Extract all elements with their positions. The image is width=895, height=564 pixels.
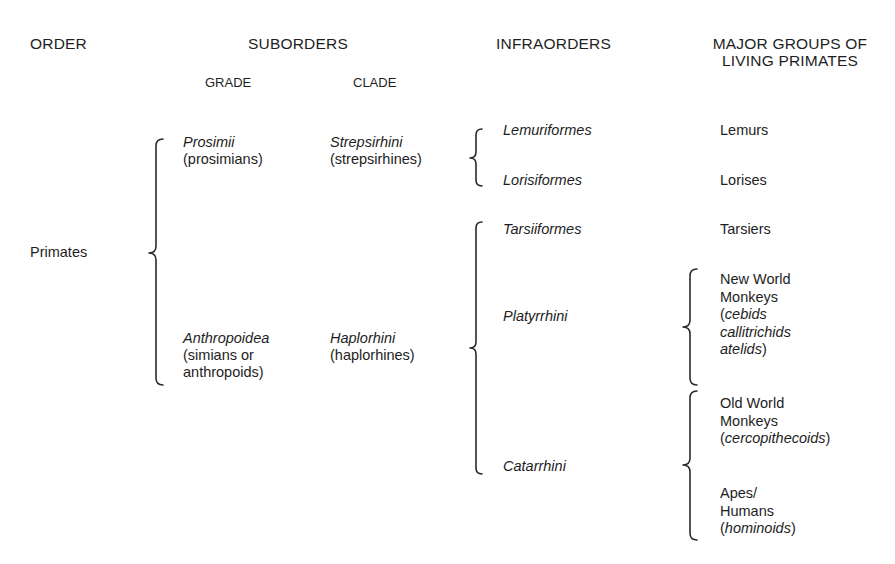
grade-anthropoidea-name: Anthropoidea — [183, 330, 269, 347]
group-lorises: Lorises — [720, 172, 767, 189]
group-new-world-monkeys: New World Monkeys (cebids callitrichids … — [720, 271, 791, 359]
infraorder-catarrhini: Catarrhini — [503, 458, 566, 475]
group-owm-line1: Old World — [720, 395, 830, 413]
clade-strepsirhini: Strepsirhini (strepsirhines) — [330, 134, 422, 168]
group-apes-humans: Apes/ Humans (hominoids) — [720, 485, 796, 538]
infraorder-lemuriformes: Lemuriformes — [503, 122, 592, 139]
infraorder-lorisiformes: Lorisiformes — [503, 172, 582, 189]
catarrhini-brace-icon — [683, 391, 697, 540]
haplorhini-brace-icon — [470, 222, 482, 474]
group-old-world-monkeys: Old World Monkeys (cercopithecoids) — [720, 395, 830, 448]
strepsirhini-brace-icon — [470, 129, 482, 186]
clade-haplorhini: Haplorhini (haplorhines) — [330, 330, 415, 364]
clade-haplorhini-name: Haplorhini — [330, 330, 415, 347]
clade-strepsirhini-name: Strepsirhini — [330, 134, 422, 151]
group-apes-line2: Humans — [720, 503, 796, 521]
grade-anthropoidea-common-line2: anthropoids) — [183, 364, 269, 381]
group-lemurs: Lemurs — [720, 122, 768, 139]
infraorder-platyrrhini: Platyrrhini — [503, 308, 567, 325]
clade-strepsirhini-common: (strepsirhines) — [330, 151, 422, 168]
grade-prosimii-common: (prosimians) — [183, 151, 263, 168]
new-world-brace-icon — [683, 269, 697, 385]
grade-prosimii: Prosimii (prosimians) — [183, 134, 263, 168]
grade-prosimii-name: Prosimii — [183, 134, 263, 151]
group-nwm-line1: New World — [720, 271, 791, 289]
group-apes-family: (hominoids) — [720, 520, 796, 538]
group-apes-line1: Apes/ — [720, 485, 796, 503]
infraorder-tarsiiformes: Tarsiiformes — [503, 221, 581, 238]
group-tarsiers: Tarsiers — [720, 221, 771, 238]
group-owm-line2: Monkeys — [720, 413, 830, 431]
group-nwm-family-atelids: atelids) — [720, 341, 791, 359]
primates-brace-icon — [149, 139, 163, 385]
group-owm-family: (cercopithecoids) — [720, 430, 830, 448]
grade-anthropoidea-common-line1: (simians or — [183, 347, 269, 364]
group-nwm-family-callitrichids: callitrichids — [720, 324, 791, 342]
clade-haplorhini-common: (haplorhines) — [330, 347, 415, 364]
group-nwm-line2: Monkeys — [720, 289, 791, 307]
group-nwm-family-cebids: (cebids — [720, 306, 791, 324]
grade-anthropoidea: Anthropoidea (simians or anthropoids) — [183, 330, 269, 381]
